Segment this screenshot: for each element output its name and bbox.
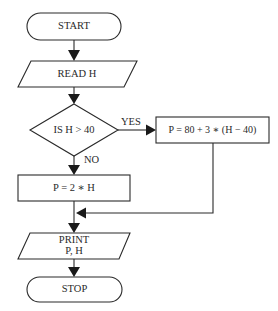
yes-label: YES (121, 116, 141, 127)
print-output-node: PRINT P, H (18, 233, 130, 259)
yes-process-label: P = 80 + 3 ∗ (H − 40) (169, 124, 257, 136)
print-label-line1: PRINT (59, 234, 90, 245)
decision-node: IS H > 40 (30, 104, 118, 156)
decision-label: IS H > 40 (53, 124, 94, 135)
print-label-line2: P, H (65, 245, 83, 256)
arrow-down-icon (68, 94, 80, 104)
start-label: START (58, 20, 90, 31)
flowchart: START READ H IS H > 40 YES P = 80 + 3 ∗ … (0, 0, 278, 311)
no-process-label: P = 2 ∗ H (53, 182, 95, 193)
read-input-node: READ H (18, 61, 137, 87)
arrow-down-icon (68, 267, 80, 277)
start-terminal: START (27, 13, 121, 40)
read-label: READ H (58, 68, 97, 79)
arrow-down-icon (68, 50, 80, 61)
arrow-right-icon (146, 125, 156, 136)
arrow-down-icon (68, 165, 80, 175)
no-label: NO (84, 154, 100, 165)
yes-process-node: P = 80 + 3 ∗ (H − 40) (156, 117, 269, 143)
arrow-down-icon (68, 223, 80, 233)
stop-label: STOP (62, 283, 88, 294)
arrow-left-icon (76, 208, 86, 219)
no-process-node: P = 2 ∗ H (18, 175, 130, 201)
stop-terminal: STOP (27, 277, 122, 302)
